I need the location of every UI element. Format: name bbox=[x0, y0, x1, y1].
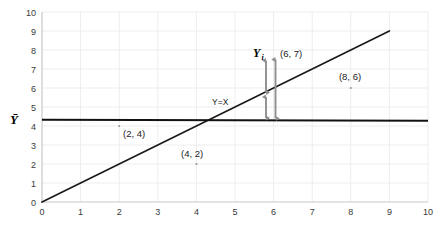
x-tick-9: 9 bbox=[387, 207, 392, 217]
scatter-chart: 10 9 8 7 6 5 4 3 2 1 0 0 1 2 3 4 5 6 bbox=[0, 0, 447, 229]
x-tick-6: 6 bbox=[271, 207, 276, 217]
point-label-8-6: (8, 6) bbox=[339, 71, 361, 82]
y-tick-labels: 10 9 8 7 6 5 4 3 2 1 0 bbox=[26, 8, 36, 208]
x-tick-4: 4 bbox=[194, 207, 199, 217]
y-axis-label: Ȳ bbox=[10, 112, 19, 127]
data-point-2-4 bbox=[118, 125, 120, 127]
y-tick-2: 2 bbox=[31, 160, 36, 170]
chart-screenshot: 10 9 8 7 6 5 4 3 2 1 0 0 1 2 3 4 5 6 bbox=[0, 0, 447, 229]
x-tick-1: 1 bbox=[78, 207, 83, 217]
point-label-2-4: (2, 4) bbox=[123, 128, 145, 139]
x-tick-10: 10 bbox=[423, 207, 433, 217]
identity-line-label: Y=X bbox=[212, 97, 229, 107]
mean-line bbox=[42, 120, 428, 121]
x-tick-5: 5 bbox=[232, 207, 237, 217]
x-tick-0: 0 bbox=[39, 207, 44, 217]
x-tick-8: 8 bbox=[348, 207, 353, 217]
point-label-6-7: (6, 7) bbox=[280, 48, 302, 59]
y-tick-8: 8 bbox=[31, 46, 36, 56]
y-tick-1: 1 bbox=[31, 179, 36, 189]
y-tick-9: 9 bbox=[31, 27, 36, 37]
y-tick-5: 5 bbox=[31, 103, 36, 113]
y-tick-10: 10 bbox=[26, 8, 36, 18]
y-tick-6: 6 bbox=[31, 84, 36, 94]
y-tick-3: 3 bbox=[31, 141, 36, 151]
chart-canvas: 10 9 8 7 6 5 4 3 2 1 0 0 1 2 3 4 5 6 bbox=[0, 0, 447, 229]
data-point-8-6 bbox=[350, 87, 352, 89]
x-tick-labels: 0 1 2 3 4 5 6 7 8 9 10 bbox=[39, 207, 433, 217]
point-label-4-2: (4, 2) bbox=[181, 148, 203, 159]
x-tick-3: 3 bbox=[155, 207, 160, 217]
data-point-4-2 bbox=[195, 163, 197, 165]
x-tick-7: 7 bbox=[310, 207, 315, 217]
y-tick-7: 7 bbox=[31, 65, 36, 75]
y-tick-0: 0 bbox=[31, 198, 36, 208]
x-tick-2: 2 bbox=[117, 207, 122, 217]
y-tick-4: 4 bbox=[31, 122, 36, 132]
